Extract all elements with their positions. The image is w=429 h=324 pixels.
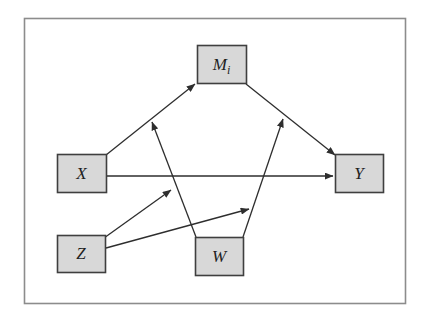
path-diagram: MiXYZW <box>0 0 429 324</box>
nodes-layer: MiXYZW <box>58 46 384 276</box>
edge-mi-to-y <box>246 84 335 155</box>
node-W-label: W <box>212 247 228 266</box>
edge-w-to-x-mi-path <box>152 122 196 237</box>
node-Y-label: Y <box>354 164 365 183</box>
edges-layer <box>104 84 335 248</box>
edge-x-to-mi <box>106 84 195 155</box>
edge-z-to-w-left-arrow <box>104 190 171 238</box>
figure-canvas: MiXYZW <box>0 0 429 324</box>
edge-w-to-mi-y-path <box>243 119 283 237</box>
node-Z-label: Z <box>76 244 86 263</box>
node-X-label: X <box>75 164 87 183</box>
